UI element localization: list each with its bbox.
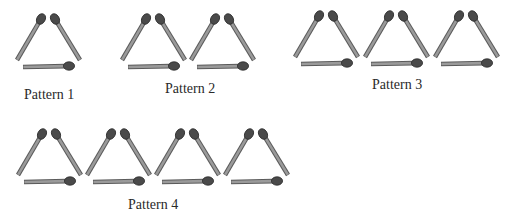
matchstick-left	[295, 9, 325, 57]
matchstick-right	[326, 9, 358, 57]
matchstick-left	[122, 12, 152, 60]
match-head-icon	[202, 177, 213, 186]
matchstick-bottom	[197, 62, 249, 71]
matchstick-diagram	[0, 0, 513, 222]
matchstick-right	[153, 12, 185, 60]
pattern-label: Pattern 4	[128, 198, 178, 212]
match-head-icon	[271, 177, 282, 186]
matchstick-right	[118, 127, 150, 175]
matchstick-left	[191, 12, 221, 60]
pattern-label: Pattern 1	[24, 88, 74, 102]
match-head-icon	[168, 62, 179, 71]
matchstick-right	[466, 9, 498, 57]
match-head-icon	[237, 62, 248, 71]
matchstick-left	[18, 127, 48, 175]
match-head-icon	[64, 177, 75, 186]
matchstick-bottom	[93, 177, 145, 186]
matchstick-bottom	[23, 62, 75, 71]
matchstick-left	[225, 127, 255, 175]
matchstick-right	[48, 12, 80, 60]
matchstick-bottom	[128, 62, 180, 71]
matchstick-bottom	[441, 59, 493, 68]
matchstick-right	[222, 12, 254, 60]
match-head-icon	[63, 62, 74, 71]
matchstick-right	[49, 127, 81, 175]
matchstick-bottom	[162, 177, 214, 186]
matchstick-bottom	[24, 177, 76, 186]
matchstick-bottom	[231, 177, 283, 186]
matchstick-right	[396, 9, 428, 57]
match-head-icon	[341, 59, 352, 68]
matchstick-left	[87, 127, 117, 175]
pattern-label: Pattern 3	[372, 78, 422, 92]
matchstick-left	[435, 9, 465, 57]
match-head-icon	[133, 177, 144, 186]
matchstick-bottom	[301, 59, 353, 68]
pattern-label: Pattern 2	[165, 82, 215, 96]
matchstick-left	[17, 12, 47, 60]
matchstick-right	[256, 127, 288, 175]
matchstick-bottom	[371, 59, 423, 68]
matchstick-left	[156, 127, 186, 175]
matchstick-left	[365, 9, 395, 57]
matchstick-right	[187, 127, 219, 175]
match-head-icon	[411, 59, 422, 68]
match-head-icon	[481, 59, 492, 68]
